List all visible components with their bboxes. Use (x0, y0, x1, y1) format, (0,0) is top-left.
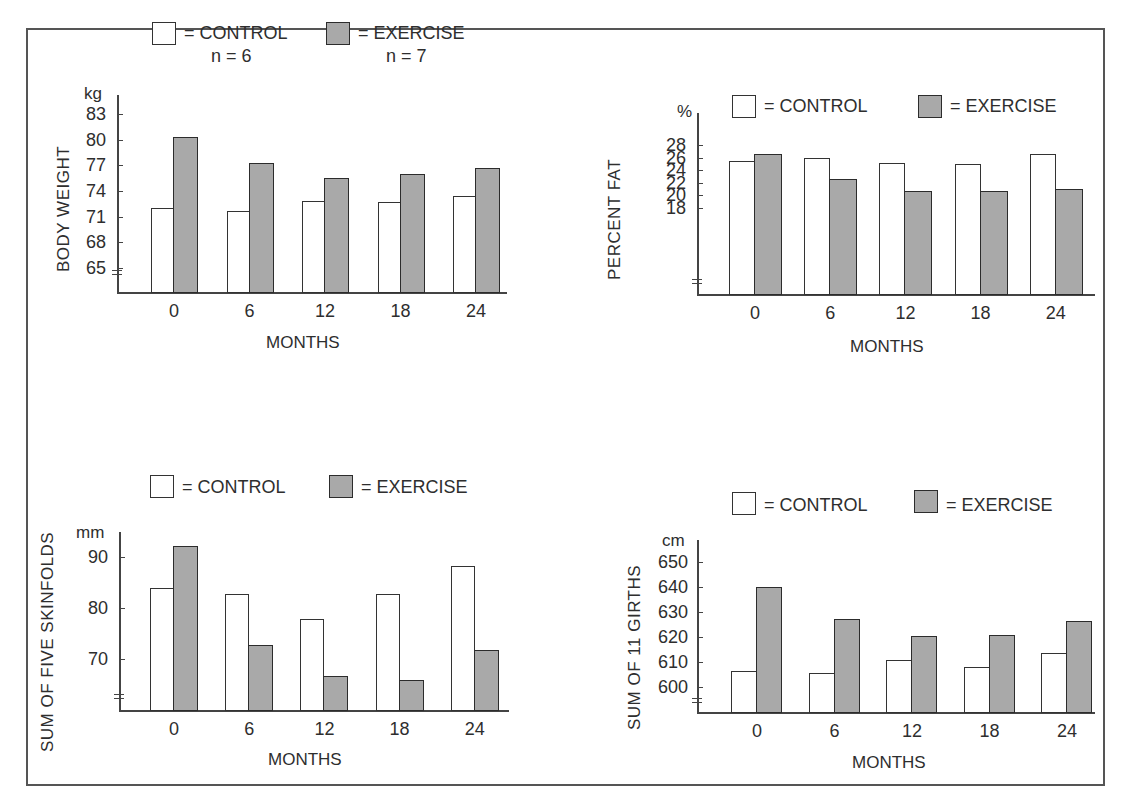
bar-control-24 (1030, 154, 1056, 295)
legend-label-exercise: = EXERCISE (946, 496, 1053, 514)
bar-control-12 (886, 660, 912, 713)
y-tick (697, 170, 703, 171)
y-tick-label: 640 (658, 578, 688, 596)
legend-label-exercise: = EXERCISE (358, 24, 465, 42)
x-axis-label: MONTHS (266, 334, 340, 351)
x-tick-label: 24 (1046, 304, 1066, 322)
bar-control-24 (1041, 653, 1067, 713)
axis-break-mark (112, 274, 122, 275)
x-tick-label: 12 (314, 720, 334, 738)
bar-exercise-18 (980, 191, 1008, 295)
bar-control-18 (376, 594, 400, 711)
legend-label-control: = CONTROL (764, 496, 868, 514)
x-tick-label: 6 (244, 720, 254, 738)
y-tick-label: 80 (86, 131, 106, 149)
x-tick-label: 0 (750, 304, 760, 322)
bar-exercise-6 (829, 179, 857, 295)
axis-break-mark (114, 694, 124, 695)
bar-exercise-18 (989, 635, 1015, 713)
y-unit: kg (84, 85, 102, 102)
bar-exercise-12 (323, 676, 348, 711)
x-tick-label: 18 (390, 720, 410, 738)
bar-control-12 (300, 619, 324, 711)
bar-control-24 (453, 196, 476, 293)
y-unit: mm (76, 524, 104, 541)
y-tick (117, 140, 123, 141)
axis-break-mark (692, 698, 702, 699)
bar-exercise-12 (324, 178, 349, 293)
bar-control-18 (955, 164, 981, 295)
axis-break-mark (692, 279, 702, 280)
y-tick-label: 650 (658, 553, 688, 571)
x-tick-label: 6 (830, 722, 840, 740)
bar-exercise-0 (173, 137, 198, 293)
x-axis-label: MONTHS (268, 751, 342, 768)
y-axis (697, 113, 699, 295)
bar-control-0 (731, 671, 757, 713)
y-tick-label: 90 (88, 548, 108, 566)
axis-break-mark (692, 283, 702, 284)
bar-exercise-6 (249, 163, 274, 293)
legend-n-control: n = 6 (211, 47, 252, 65)
bar-control-0 (729, 161, 755, 295)
x-tick-label: 12 (895, 304, 915, 322)
bar-control-24 (451, 566, 475, 711)
x-tick-label: 18 (971, 304, 991, 322)
y-tick-label: 83 (86, 105, 106, 123)
bar-exercise-24 (1055, 189, 1083, 295)
legend-swatch-control (152, 22, 176, 45)
y-tick (117, 191, 123, 192)
y-tick (697, 183, 703, 184)
legend-swatch-control (732, 492, 756, 515)
legend-swatch-exercise (326, 22, 350, 45)
y-tick-label: 620 (658, 628, 688, 646)
y-tick (117, 165, 123, 166)
y-tick (697, 208, 703, 209)
y-tick-label: 65 (86, 259, 106, 277)
y-unit: cm (662, 532, 685, 549)
bar-control-18 (378, 202, 401, 293)
y-tick (697, 662, 703, 663)
x-tick-label: 18 (391, 302, 411, 320)
y-tick (117, 217, 123, 218)
legend-label-control: = CONTROL (184, 24, 288, 42)
bar-exercise-6 (248, 645, 273, 711)
x-tick-label: 24 (1057, 722, 1077, 740)
y-tick (117, 242, 123, 243)
legend-label-exercise: = EXERCISE (361, 478, 468, 496)
y-tick-label: 600 (658, 678, 688, 696)
y-tick (697, 587, 703, 588)
y-tick-label: 630 (658, 603, 688, 621)
y-unit: % (677, 103, 692, 120)
y-axis (119, 532, 121, 711)
x-tick-label: 0 (169, 720, 179, 738)
legend-label-control: = CONTROL (182, 478, 286, 496)
x-tick-label: 12 (315, 302, 335, 320)
x-tick-label: 0 (169, 302, 179, 320)
y-axis-label: SUM OF 11 GIRTHS (625, 565, 645, 730)
y-tick (697, 637, 703, 638)
legend-label-control: = CONTROL (764, 97, 868, 115)
x-tick-label: 18 (980, 722, 1000, 740)
y-tick-label: 80 (88, 599, 108, 617)
legend-swatch-control (732, 95, 756, 118)
bar-exercise-0 (173, 546, 198, 711)
bar-control-6 (809, 673, 835, 713)
y-axis (117, 95, 119, 293)
bar-control-12 (302, 201, 325, 293)
y-axis-label: BODY WEIGHT (54, 146, 74, 272)
y-tick (117, 268, 123, 269)
y-tick (697, 687, 703, 688)
bar-control-6 (227, 211, 250, 293)
y-tick (697, 612, 703, 613)
y-tick (697, 158, 703, 159)
y-tick (697, 195, 703, 196)
y-tick-label: 74 (86, 182, 106, 200)
legend-swatch-exercise (329, 475, 353, 498)
bar-control-18 (964, 667, 990, 713)
y-tick-label: 71 (86, 208, 106, 226)
y-tick (697, 562, 703, 563)
bar-exercise-18 (400, 174, 425, 293)
legend-swatch-control (150, 475, 174, 498)
axis-break-mark (112, 270, 122, 271)
